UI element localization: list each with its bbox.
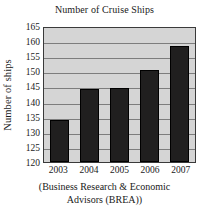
y-axis-tick-label: 165 xyxy=(26,22,40,32)
x-axis-tick-label: 2004 xyxy=(79,164,98,176)
y-axis-tick-label: 145 xyxy=(26,82,40,92)
bar-2007 xyxy=(170,46,189,162)
x-axis-tick-labels: 20032004200520062007 xyxy=(43,164,196,178)
y-axis-title-container: Number of ships xyxy=(0,27,14,163)
source-caption: (Business Research & Economic Advisors (… xyxy=(4,180,205,206)
plot-area xyxy=(43,27,196,163)
source-caption-line-2: Advisors (BREA)) xyxy=(4,193,205,206)
source-caption-line-1: (Business Research & Economic xyxy=(4,180,205,193)
bar-series xyxy=(44,28,195,162)
y-axis-tick-label: 155 xyxy=(26,52,40,62)
x-axis-tick-label: 2005 xyxy=(110,164,129,176)
bar-2006 xyxy=(140,70,159,162)
x-axis-tick-label: 2006 xyxy=(141,164,160,176)
y-axis-title: Number of ships xyxy=(2,59,13,131)
y-axis-tick-label: 150 xyxy=(26,67,40,77)
y-axis-tick-label: 125 xyxy=(26,143,40,153)
x-axis-tick-label: 2007 xyxy=(171,164,190,176)
bar-2004 xyxy=(80,89,99,162)
y-axis-tick-label: 120 xyxy=(26,158,40,168)
y-axis-tick-labels: 165160155150145140135130125120 xyxy=(14,27,42,163)
y-axis-tick-label: 135 xyxy=(26,113,40,123)
bar-2003 xyxy=(50,120,69,162)
bar-2005 xyxy=(110,88,129,162)
y-axis-tick-label: 160 xyxy=(26,37,40,47)
y-axis-tick-label: 130 xyxy=(26,128,40,138)
cruise-ships-bar-chart: Number of Cruise Ships Number of ships 1… xyxy=(0,0,209,215)
chart-title: Number of Cruise Ships xyxy=(0,4,209,16)
x-axis-tick-label: 2003 xyxy=(49,164,68,176)
y-axis-tick-label: 140 xyxy=(26,98,40,108)
